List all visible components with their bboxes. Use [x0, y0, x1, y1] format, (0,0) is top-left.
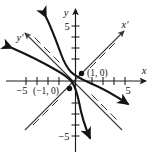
point-1-0-dot	[79, 71, 84, 76]
point-label-1-0: (1, 0)	[87, 68, 108, 79]
y-tick-label-5: 5	[64, 21, 69, 32]
y-tick-label-minus-5: −5	[58, 131, 69, 142]
x-axis-label: x	[141, 65, 147, 76]
x-tick-label-minus-5: −5	[16, 85, 27, 96]
point-label-neg1-0: (−1, 0)	[33, 86, 59, 97]
x-tick-label-5: 5	[125, 85, 130, 96]
point-neg1-0-dot	[67, 86, 72, 91]
y-axis-label: y	[63, 7, 69, 18]
x-prime-axis-label: x′	[121, 19, 130, 30]
rotated-axes-hyperbola-figure: y x x′ y′ −5 5 5 −5 (1, 0) (−1, 0)	[0, 0, 155, 159]
y-prime-axis-label: y′	[16, 32, 25, 43]
graph-canvas: y x x′ y′ −5 5 5 −5 (1, 0) (−1, 0)	[0, 0, 155, 159]
